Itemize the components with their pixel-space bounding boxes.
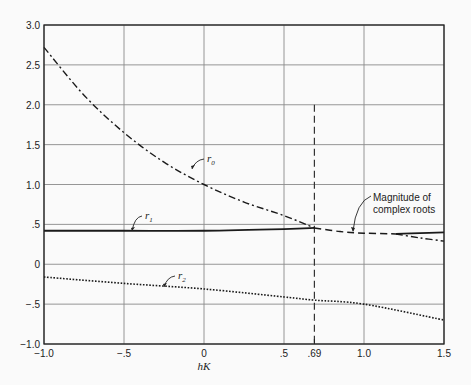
y-tick-label: 2.5 [26,60,40,71]
x-tick-label: 1.0 [357,348,371,359]
x-tick-label: −1.0 [34,348,54,359]
label-r1-subscript: 1 [149,216,153,224]
label-r2-leader [164,276,175,287]
chart: 3.02.52.01.51.0.50−.5−1.0−1.0−.50.5.691.… [0,0,471,385]
label-magnitude-leader [353,196,371,231]
x-tick-label: .69 [307,348,321,359]
series-r0 [44,47,314,228]
label-r2-subscript: 2 [182,276,186,284]
y-tick-label: 0 [34,259,40,270]
label-magnitude-line2: complex roots [373,204,435,215]
label-r0-subscript: 0 [211,159,215,167]
grid [44,25,444,344]
x-tick-label: .5 [280,348,289,359]
label-r0-arrowhead [191,165,195,169]
series-r2 [44,277,444,320]
label-r0: r0 [207,152,215,167]
label-r1: r1 [145,209,153,224]
series-r1 [44,228,314,231]
x-tick-label: −.5 [117,348,132,359]
label-r2: r2 [178,269,186,284]
y-tick-label: 1.0 [26,180,40,191]
x-axis-label: hK [198,360,212,372]
x-tick-label: 0 [201,348,207,359]
y-tick-label: .5 [32,219,41,230]
series-r0-beyond [396,234,444,241]
x-tick-label: 1.5 [437,348,451,359]
y-tick-label: −.5 [26,299,41,310]
series-magnitude-of-complex-roots [314,228,396,234]
y-tick-label: 1.5 [26,140,40,151]
label-r0-leader [192,159,204,169]
label-magnitude-line1: Magnitude of [373,192,431,203]
y-tick-label: 3.0 [26,20,40,31]
y-tick-label: 2.0 [26,100,40,111]
labels: r0r1r2Magnitude ofcomplex roots [131,152,435,287]
series-r1-beyond [396,232,444,234]
label-magnitude-arrowhead [351,227,355,232]
